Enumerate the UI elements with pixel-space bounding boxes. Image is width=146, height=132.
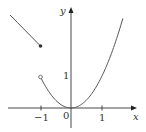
closed-endpoint-dot xyxy=(39,44,43,48)
x-axis-arrow-icon xyxy=(131,106,137,111)
x-tick-label-1: 1 xyxy=(99,113,105,123)
y-tick-label-1: 1 xyxy=(63,71,69,81)
y-axis-label: y xyxy=(60,6,66,16)
linear-branch-curve xyxy=(10,15,41,46)
y-axis-arrow-icon xyxy=(69,7,74,13)
piecewise-graph xyxy=(0,0,146,132)
origin-label: 0 xyxy=(63,111,69,121)
x-tick-label-neg1: −1 xyxy=(34,113,49,123)
open-endpoint-circle xyxy=(39,75,43,79)
x-axis-label: x xyxy=(133,112,139,122)
parabola-branch-curve xyxy=(41,18,123,108)
